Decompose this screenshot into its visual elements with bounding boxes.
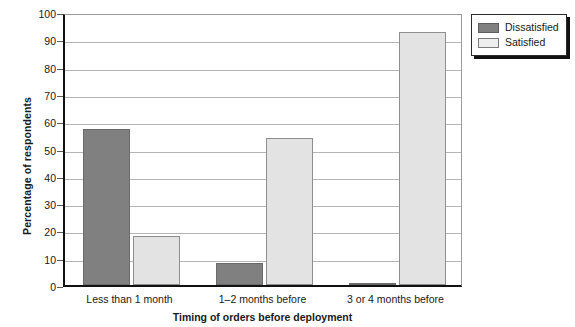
y-tick-label: 100 — [16, 8, 56, 20]
y-tick-label: 80 — [16, 63, 56, 75]
bar-chart-figure: Percentage of respondents 01020304050607… — [0, 0, 575, 327]
bar-dissatisfied-1 — [83, 129, 130, 285]
y-tick-label: 20 — [16, 226, 56, 238]
bar-series-container — [65, 15, 461, 285]
bar-dissatisfied-3 — [349, 283, 396, 285]
y-tick-label: 0 — [16, 281, 56, 293]
legend-item: Satisfied — [478, 35, 559, 50]
x-tick-label: 1–2 months before — [219, 293, 307, 305]
y-tick-label: 90 — [16, 35, 56, 47]
y-tick-label: 40 — [16, 172, 56, 184]
y-tick-label: 30 — [16, 199, 56, 211]
legend-label-dissatisfied: Dissatisfied — [505, 22, 559, 33]
legend: Dissatisfied Satisfied — [471, 14, 567, 56]
legend-label-satisfied: Satisfied — [505, 37, 545, 48]
y-axis-title: Percentage of respondents — [21, 46, 33, 286]
legend-item: Dissatisfied — [478, 20, 559, 35]
x-tick-label: 3 or 4 months before — [347, 293, 444, 305]
plot-area — [63, 14, 462, 287]
x-tick-label: Less than 1 month — [86, 293, 172, 305]
y-tick-mark — [57, 287, 63, 288]
y-tick-label: 60 — [16, 117, 56, 129]
legend-swatch-satisfied — [478, 38, 499, 48]
bar-satisfied-2 — [266, 138, 313, 285]
y-tick-label: 50 — [16, 145, 56, 157]
x-axis-title: Timing of orders before deployment — [63, 311, 462, 323]
bar-dissatisfied-2 — [216, 263, 263, 285]
y-tick-label: 70 — [16, 90, 56, 102]
legend-swatch-dissatisfied — [478, 23, 499, 33]
bar-satisfied-1 — [133, 236, 180, 285]
bar-satisfied-3 — [399, 32, 446, 285]
y-tick-label: 10 — [16, 254, 56, 266]
